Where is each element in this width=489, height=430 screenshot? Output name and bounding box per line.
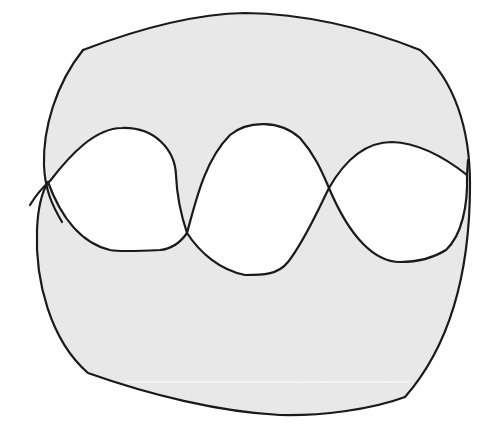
diagram-figure [0,0,489,430]
diagram-canvas [0,0,489,430]
